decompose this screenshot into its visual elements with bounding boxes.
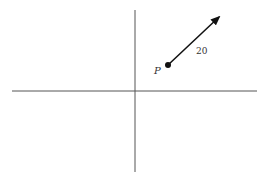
vector-diagram: P 20 — [0, 0, 264, 184]
point-p-label: P — [153, 65, 161, 76]
vector-arrow — [168, 17, 219, 65]
vector-magnitude-label: 20 — [196, 46, 208, 56]
point-p-dot — [165, 62, 171, 68]
